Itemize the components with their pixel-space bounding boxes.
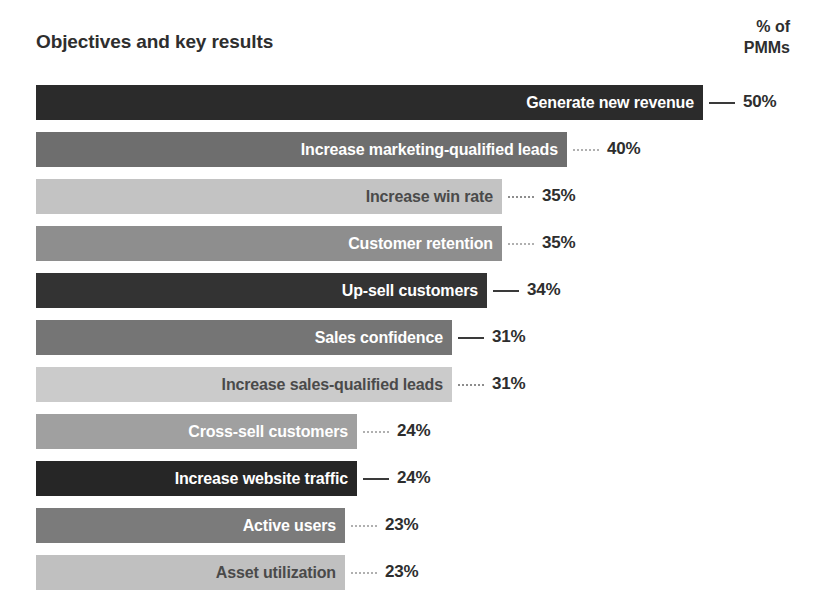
bar[interactable]: Asset utilization — [36, 555, 345, 590]
bar-value-connector-line — [351, 525, 377, 527]
value-axis-header-line2: PMMs — [670, 37, 790, 58]
bar-category-label: Active users — [243, 517, 345, 535]
bar-category-label: Up-sell customers — [342, 282, 487, 300]
bar[interactable]: Increase marketing-qualified leads — [36, 132, 567, 167]
bar-category-label: Increase sales-qualified leads — [222, 376, 452, 394]
bar[interactable]: Increase website traffic — [36, 461, 357, 496]
value-axis-header: % of PMMs — [670, 16, 790, 58]
bar-category-label: Sales confidence — [315, 329, 452, 347]
bar-value-label: 23% — [385, 562, 418, 582]
bar-category-label: Cross-sell customers — [188, 423, 357, 441]
bar-row[interactable]: Asset utilization23% — [0, 555, 824, 590]
bar-value-connector-line — [573, 149, 599, 151]
bar-row[interactable]: Up-sell customers34% — [0, 273, 824, 308]
bar-row[interactable]: Increase sales-qualified leads31% — [0, 367, 824, 402]
bar-value-label: 35% — [542, 233, 575, 253]
bar[interactable]: Up-sell customers — [36, 273, 487, 308]
bar-row[interactable]: Generate new revenue50% — [0, 85, 824, 120]
bar-value-label: 34% — [527, 280, 560, 300]
bar[interactable]: Increase win rate — [36, 179, 502, 214]
bar-value-connector-line — [363, 478, 389, 480]
bar[interactable]: Sales confidence — [36, 320, 452, 355]
bar-category-label: Increase marketing-qualified leads — [301, 141, 567, 159]
bar-value-connector-line — [493, 290, 519, 292]
bar-value-connector-line — [508, 196, 534, 198]
bar[interactable]: Generate new revenue — [36, 85, 703, 120]
page-title: Objectives and key results — [36, 31, 273, 53]
bar-value-label: 31% — [492, 374, 525, 394]
bar-value-label: 24% — [397, 468, 430, 488]
bar-category-label: Increase website traffic — [175, 470, 357, 488]
bar-category-label: Increase win rate — [366, 188, 502, 206]
bar-row[interactable]: Increase marketing-qualified leads40% — [0, 132, 824, 167]
bar-value-label: 35% — [542, 186, 575, 206]
bar[interactable]: Cross-sell customers — [36, 414, 357, 449]
bar-value-label: 24% — [397, 421, 430, 441]
bar-value-connector-line — [458, 337, 484, 339]
bar[interactable]: Increase sales-qualified leads — [36, 367, 452, 402]
bar-row[interactable]: Customer retention35% — [0, 226, 824, 261]
bar[interactable]: Customer retention — [36, 226, 502, 261]
bar-row[interactable]: Active users23% — [0, 508, 824, 543]
bar-row[interactable]: Increase win rate35% — [0, 179, 824, 214]
bar-chart-plot: Generate new revenue50%Increase marketin… — [0, 85, 824, 602]
bar-row[interactable]: Sales confidence31% — [0, 320, 824, 355]
bar-category-label: Customer retention — [348, 235, 502, 253]
bar-category-label: Asset utilization — [216, 564, 345, 582]
bar-value-label: 31% — [492, 327, 525, 347]
bar-value-connector-line — [508, 243, 534, 245]
bar-value-connector-line — [458, 384, 484, 386]
bar[interactable]: Active users — [36, 508, 345, 543]
bar-value-label: 50% — [743, 92, 776, 112]
value-axis-header-line1: % of — [670, 16, 790, 37]
bar-value-label: 23% — [385, 515, 418, 535]
bar-row[interactable]: Increase website traffic24% — [0, 461, 824, 496]
chart-header: Objectives and key results % of PMMs — [0, 0, 824, 80]
bar-value-connector-line — [709, 102, 735, 104]
chart-root: Objectives and key results % of PMMs Gen… — [0, 0, 824, 602]
bar-row[interactable]: Cross-sell customers24% — [0, 414, 824, 449]
bar-value-label: 40% — [607, 139, 640, 159]
bar-value-connector-line — [351, 572, 377, 574]
bar-category-label: Generate new revenue — [526, 94, 703, 112]
bar-value-connector-line — [363, 431, 389, 433]
